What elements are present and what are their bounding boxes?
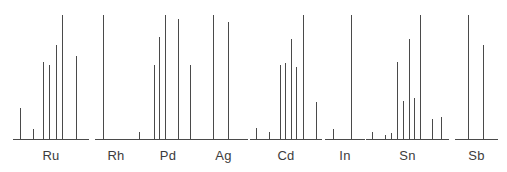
isotope-peak (303, 15, 304, 139)
element-group-ru: Ru (13, 0, 89, 172)
isotope-peak (291, 39, 292, 139)
isotope-peak (190, 65, 191, 139)
isotope-pattern-chart: Ru Rh Pd Ag Cd (0, 0, 507, 172)
isotope-peak (409, 39, 410, 139)
element-group-sb: Sb (455, 0, 498, 172)
element-group-sn: Sn (366, 0, 449, 172)
plot-area-ru (13, 0, 89, 140)
element-label-cd: Cd (250, 148, 322, 163)
isotope-peak (316, 102, 317, 139)
isotope-peak (62, 15, 63, 139)
isotope-peak (269, 132, 270, 139)
plot-area-in (325, 0, 365, 140)
element-label-sb: Sb (455, 148, 498, 163)
isotope-peak (159, 37, 160, 139)
isotope-peak (178, 19, 179, 139)
element-label-ag: Ag (199, 148, 248, 163)
plot-area-sb (455, 0, 498, 140)
isotope-peak (414, 98, 415, 139)
isotope-peak (56, 45, 57, 139)
isotope-peak (403, 101, 404, 139)
baseline-pd (133, 139, 203, 140)
element-group-in: In (325, 0, 365, 172)
baseline-cd (250, 139, 322, 140)
plot-area-pd (133, 0, 203, 140)
baseline-ru (13, 139, 89, 140)
isotope-peak (33, 129, 34, 139)
isotope-peak (351, 15, 352, 139)
isotope-peak (397, 62, 398, 139)
baseline-rh (95, 139, 137, 140)
baseline-sn (366, 139, 449, 140)
baseline-sb (455, 139, 498, 140)
isotope-peak (280, 65, 281, 139)
isotope-peak (103, 15, 104, 139)
element-group-cd: Cd (250, 0, 322, 172)
element-group-pd: Pd (133, 0, 203, 172)
plot-area-ag (199, 0, 248, 140)
element-label-in: In (325, 148, 365, 163)
isotope-peak (385, 135, 386, 139)
isotope-peak (213, 15, 214, 139)
plot-area-sn (366, 0, 449, 140)
isotope-peak (154, 65, 155, 139)
plot-area-cd (250, 0, 322, 140)
isotope-peak (228, 22, 229, 139)
element-group-rh: Rh (95, 0, 137, 172)
isotope-peak (441, 117, 442, 139)
isotope-peak (372, 132, 373, 139)
isotope-peak (256, 128, 257, 139)
element-label-rh: Rh (95, 148, 137, 163)
isotope-peak (296, 67, 297, 139)
isotope-peak (165, 15, 166, 139)
element-group-ag: Ag (199, 0, 248, 172)
isotope-peak (76, 56, 77, 139)
plot-area-rh (95, 0, 137, 140)
baseline-in (325, 139, 365, 140)
isotope-peak (391, 133, 392, 139)
isotope-peak (432, 119, 433, 139)
isotope-peak (420, 15, 421, 139)
isotope-peak (20, 108, 21, 139)
baseline-ag (199, 139, 248, 140)
isotope-peak (333, 129, 334, 139)
isotope-peak (285, 63, 286, 139)
element-label-ru: Ru (13, 148, 89, 163)
isotope-peak (483, 45, 484, 139)
isotope-peak (139, 132, 140, 139)
isotope-peak (468, 15, 469, 139)
element-label-pd: Pd (133, 148, 203, 163)
element-label-sn: Sn (366, 148, 449, 163)
isotope-peak (49, 65, 50, 139)
isotope-peak (43, 62, 44, 139)
